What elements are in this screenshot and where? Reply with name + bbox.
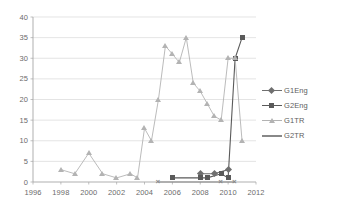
data-point-g2tr: × (155, 178, 160, 186)
data-point-g1tr (86, 150, 92, 155)
x-axis-label: 2004 (130, 188, 160, 197)
data-point-g1tr (211, 113, 217, 118)
data-point-g1tr (232, 55, 238, 60)
y-axis-label: 15 (8, 116, 28, 125)
data-point-g1tr (127, 171, 133, 176)
data-point-g2eng (170, 175, 175, 180)
legend-label-g2tr: G2TR (284, 131, 304, 140)
legend-label-g1eng: G1Eng (284, 86, 308, 95)
data-point-g2eng (240, 35, 245, 40)
x-axis-label: 2000 (74, 188, 104, 197)
data-point-g1tr (204, 101, 210, 106)
data-point-g1tr (169, 51, 175, 56)
data-point-g2tr: × (232, 178, 237, 186)
x-axis-label: 2012 (241, 188, 271, 197)
legend-swatch-square-icon (262, 101, 282, 110)
legend-swatch-diamond-icon (262, 86, 282, 95)
y-axis-label: 25 (8, 74, 28, 83)
data-point-g1tr (155, 97, 161, 102)
legend-swatch-triangle-icon (262, 116, 282, 125)
x-axis-label: 1996 (18, 188, 48, 197)
x-axis-label: 2010 (213, 188, 243, 197)
data-point-g1tr (162, 43, 168, 48)
data-point-g1tr (113, 175, 119, 180)
legend-item-g2eng[interactable]: G2Eng (262, 99, 338, 112)
x-axis-label: 2002 (102, 188, 132, 197)
y-axis-label: 20 (8, 95, 28, 104)
data-point-g2eng (226, 175, 231, 180)
chart-container: 4035302520151050 19961998200020022004200… (0, 0, 339, 215)
data-point-g1tr (148, 138, 154, 143)
data-point-g1tr (72, 171, 78, 176)
y-axis-label: 10 (8, 136, 28, 145)
data-point-g1tr (239, 138, 245, 143)
chart-legend: G1Eng G2Eng G1TR G2TR (262, 84, 338, 144)
data-point-g1tr (58, 167, 64, 172)
legend-swatch-line-icon (262, 131, 282, 140)
legend-item-g2tr[interactable]: G2TR (262, 129, 338, 142)
legend-label-g1tr: G1TR (284, 116, 304, 125)
data-point-g1tr (134, 175, 140, 180)
data-point-g1tr (176, 59, 182, 64)
series-line-g1tr (61, 38, 242, 178)
data-point-g1tr (190, 80, 196, 85)
data-point-g2tr: × (218, 178, 223, 186)
y-axis-label: 0 (8, 178, 28, 187)
data-point-g1tr (197, 88, 203, 93)
data-point-g2eng (198, 175, 203, 180)
legend-label-g2eng: G2Eng (284, 101, 308, 110)
y-axis-label: 40 (8, 13, 28, 22)
y-axis-label: 35 (8, 33, 28, 42)
data-point-g1tr (225, 55, 231, 60)
data-point-g1tr (99, 171, 105, 176)
x-axis-label: 2008 (185, 188, 215, 197)
x-axis-label: 2006 (157, 188, 187, 197)
data-point-g1tr (183, 35, 189, 40)
data-point-g2eng (205, 175, 210, 180)
data-point-g1tr (218, 117, 224, 122)
y-axis-label: 30 (8, 54, 28, 63)
y-axis-label: 5 (8, 157, 28, 166)
legend-item-g1tr[interactable]: G1TR (262, 114, 338, 127)
data-point-g2eng (219, 171, 224, 176)
legend-item-g1eng[interactable]: G1Eng (262, 84, 338, 97)
x-axis-label: 1998 (46, 188, 76, 197)
data-point-g1tr (141, 125, 147, 130)
